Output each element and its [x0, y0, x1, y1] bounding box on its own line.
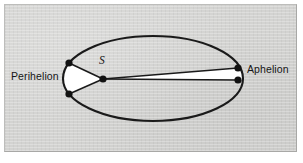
- perihelion-swept-sector: [63, 63, 103, 94]
- perihelion-lower-point-marker: [65, 90, 72, 97]
- perihelion-upper-point-marker: [65, 59, 72, 66]
- aphelion-lower-point-marker: [234, 76, 241, 83]
- aphelion-upper-point-marker: [234, 64, 241, 71]
- perihelion-label: Perihelion: [11, 71, 59, 82]
- aphelion-label: Aphelion: [247, 64, 289, 75]
- orbit-figure: Perihelion Aphelion S: [0, 0, 303, 163]
- sun-focus-point-marker: [99, 75, 106, 82]
- radius-vector-aphelion-lower: [103, 79, 238, 80]
- sun-focus-label: S: [99, 55, 105, 67]
